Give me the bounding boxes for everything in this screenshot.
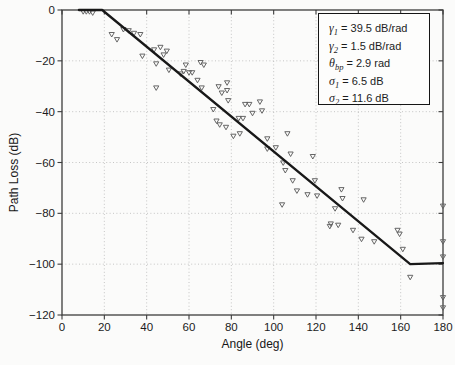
svg-text:100: 100	[264, 321, 283, 333]
legend-item-gamma1: γ1 = 39.5 dB/rad	[329, 20, 429, 38]
svg-text:60: 60	[183, 321, 196, 333]
sigma2-value: = 11.6 dB	[339, 92, 389, 104]
svg-text:20: 20	[98, 321, 111, 333]
y-axis-label: Path Loss (dB)	[7, 20, 22, 326]
svg-text:140: 140	[349, 321, 368, 333]
svg-text:−120: −120	[29, 309, 55, 321]
svg-text:40: 40	[140, 321, 153, 333]
legend-item-gamma2: γ2 = 1.5 dB/rad	[329, 38, 429, 56]
svg-text:−20: −20	[35, 55, 55, 67]
gamma1-value: = 39.5 dB/rad	[338, 22, 407, 34]
theta-bp-value: = 2.9 rad	[343, 57, 390, 69]
gamma2-subscript: 2	[334, 45, 338, 55]
sigma2-subscript: 2	[335, 97, 339, 107]
legend-item-sigma1: σ1 = 6.5 dB	[329, 73, 429, 91]
svg-text:−80: −80	[35, 207, 55, 219]
legend-box: γ1 = 39.5 dB/rad γ2 = 1.5 dB/rad θbp = 2…	[318, 13, 430, 105]
svg-text:0: 0	[59, 321, 65, 333]
figure-path-loss-vs-angle: 0204060801001201401601800−20−40−60−80−10…	[0, 0, 455, 365]
svg-text:−40: −40	[35, 106, 55, 118]
sigma1-value: = 6.5 dB	[339, 75, 383, 87]
svg-text:−100: −100	[29, 258, 55, 270]
svg-text:−60: −60	[35, 157, 55, 169]
theta-bp-subscript: bp	[335, 62, 344, 72]
x-axis-label: Angle (deg)	[62, 337, 443, 351]
svg-text:120: 120	[306, 321, 325, 333]
svg-text:160: 160	[391, 321, 410, 333]
svg-text:80: 80	[225, 321, 238, 333]
svg-text:180: 180	[433, 321, 452, 333]
legend-item-theta-bp: θbp = 2.9 rad	[329, 55, 429, 73]
gamma2-value: = 1.5 dB/rad	[338, 40, 401, 52]
sigma1-subscript: 1	[335, 80, 339, 90]
legend-item-sigma2: σ2 = 11.6 dB	[329, 90, 429, 108]
svg-text:0: 0	[49, 4, 55, 16]
gamma1-subscript: 1	[334, 27, 338, 37]
